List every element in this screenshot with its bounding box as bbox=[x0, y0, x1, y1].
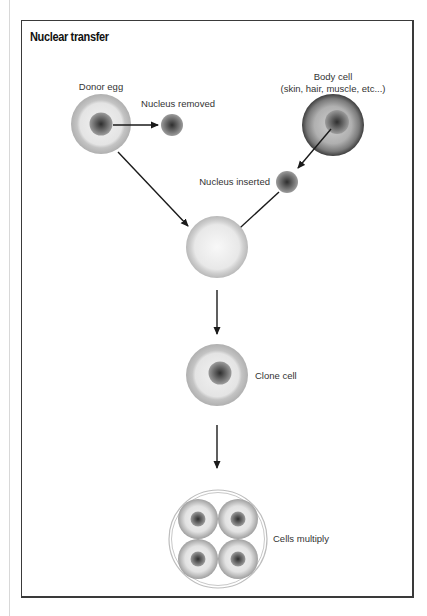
donor-egg-nucleus bbox=[90, 113, 113, 136]
daughter-cell-bottom-left bbox=[178, 539, 218, 579]
body-cell-nucleus bbox=[325, 110, 349, 134]
clone-cell-nucleus bbox=[209, 362, 232, 385]
multiplied-cells bbox=[169, 490, 267, 588]
donor-egg-cell bbox=[71, 94, 131, 154]
label-donor-egg: Donor egg bbox=[79, 81, 123, 92]
fused-egg-cell bbox=[186, 216, 248, 278]
label-nucleus-inserted: Nucleus inserted bbox=[199, 176, 270, 187]
label-body-cell-examples: (skin, hair, muscle, etc...) bbox=[280, 83, 385, 94]
label-nucleus-removed: Nucleus removed bbox=[141, 98, 215, 109]
arrow-egg-to-fusion bbox=[118, 152, 188, 226]
daughter-cell-top-left bbox=[178, 499, 218, 539]
daughter-cell-bottom-right bbox=[218, 539, 258, 579]
label-clone-cell: Clone cell bbox=[255, 370, 297, 381]
label-cells-multiply: Cells multiply bbox=[273, 533, 329, 544]
removed-nucleus bbox=[161, 114, 183, 136]
daughter-cell-top-right bbox=[218, 499, 258, 539]
label-body-cell: Body cell bbox=[314, 71, 353, 82]
clone-cell bbox=[186, 344, 248, 406]
inserted-nucleus bbox=[276, 171, 298, 193]
diagram-canvas: Donor egg Nucleus removed Body cell (ski… bbox=[0, 0, 427, 616]
body-cell bbox=[302, 94, 364, 156]
